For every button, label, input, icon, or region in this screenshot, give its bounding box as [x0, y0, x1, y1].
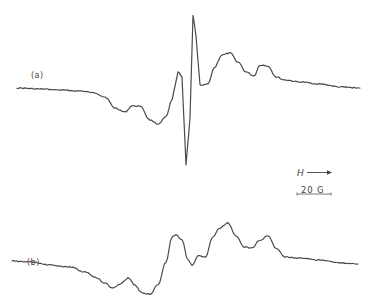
spectra-plot: [0, 0, 370, 308]
epr-spectra-figure: (a) (b) H 20 G: [0, 0, 370, 308]
field-arrow-icon: [307, 170, 332, 174]
spectrum-trace-b: [12, 223, 358, 295]
field-direction-label: H: [297, 168, 304, 178]
scale-bar-label: 20 G: [301, 185, 324, 195]
spectrum-label-a: (a): [31, 71, 44, 80]
spectrum-label-b: (b): [27, 258, 40, 267]
spectrum-trace-a: [17, 15, 360, 165]
